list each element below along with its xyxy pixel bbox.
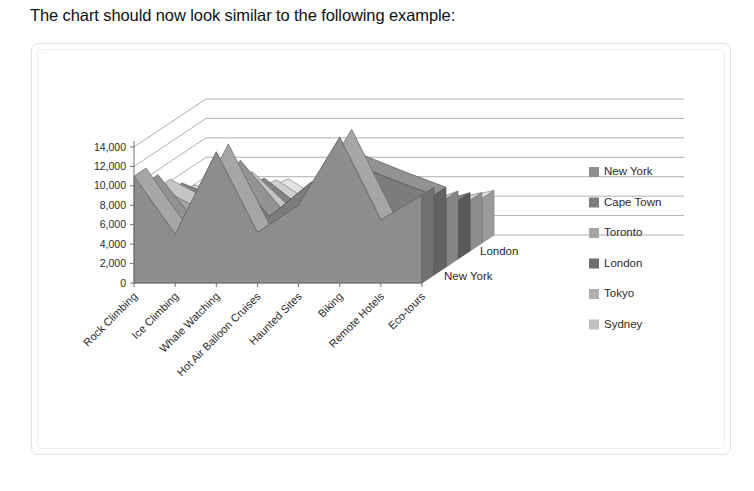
category-axis-labels: Rock ClimbingIce ClimbingWhale WatchingH… xyxy=(81,290,428,379)
series-side-face xyxy=(434,187,446,275)
chart-plot-container[interactable]: 14,00012,00010,0008,0006,0004,0002,0000 … xyxy=(32,44,732,456)
legend-label: Sydney xyxy=(604,318,643,330)
value-axis-labels: 14,00012,00010,0008,0006,0004,0002,0000 xyxy=(94,141,126,289)
legend-item[interactable]: Tokyo xyxy=(589,287,634,299)
legend-label: Cape Town xyxy=(604,196,661,208)
category-axis xyxy=(134,283,422,287)
category-label: Biking xyxy=(315,290,345,320)
legend-swatch xyxy=(589,289,599,299)
category-label: Hot Air Balloon Cruises xyxy=(174,290,263,379)
chart-legend[interactable]: New YorkCape TownTorontoLondonTokyoSydne… xyxy=(589,165,661,330)
legend-swatch xyxy=(589,320,599,330)
legend-swatch xyxy=(589,167,599,177)
series-side-face xyxy=(482,190,494,243)
value-axis-label: 14,000 xyxy=(94,141,126,153)
series-side-face xyxy=(422,188,434,283)
legend-label: Toronto xyxy=(604,226,642,238)
legend-item[interactable]: Cape Town xyxy=(589,196,661,208)
legend-swatch xyxy=(589,228,599,238)
area-chart-3d[interactable]: 14,00012,00010,0008,0006,0004,0002,0000 … xyxy=(32,44,732,456)
legend-label: Tokyo xyxy=(604,287,634,299)
chart-picture-frame: 14,00012,00010,0008,0006,0004,0002,0000 … xyxy=(31,43,731,455)
value-axis-label: 12,000 xyxy=(94,160,126,172)
value-axis-label: 8,000 xyxy=(100,199,126,211)
value-axis-label: 0 xyxy=(120,277,126,289)
legend-item[interactable]: New York xyxy=(589,165,653,177)
series-side-face xyxy=(446,191,458,267)
value-axis-label: 10,000 xyxy=(94,179,126,191)
value-axis-label: 2,000 xyxy=(100,257,126,269)
legend-swatch xyxy=(589,259,599,269)
legend-label: London xyxy=(604,257,642,269)
legend-swatch xyxy=(589,198,599,208)
category-label: Rock Climbing xyxy=(81,290,140,349)
legend-label: New York xyxy=(604,165,653,177)
category-label: Eco-tours xyxy=(386,290,428,332)
chart-series-layer[interactable] xyxy=(134,129,494,283)
depth-axis-label: London xyxy=(480,245,518,257)
value-axis-label: 6,000 xyxy=(100,218,126,230)
series-side-face xyxy=(458,193,470,259)
legend-item[interactable]: Toronto xyxy=(589,226,642,238)
gridline xyxy=(134,99,684,147)
depth-axis-label: New York xyxy=(444,270,493,282)
value-axis xyxy=(130,141,134,283)
legend-item[interactable]: London xyxy=(589,257,642,269)
series-side-face xyxy=(470,192,482,251)
value-axis-label: 4,000 xyxy=(100,238,126,250)
intro-paragraph: The chart should now look similar to the… xyxy=(30,4,455,26)
legend-item[interactable]: Sydney xyxy=(589,318,643,330)
